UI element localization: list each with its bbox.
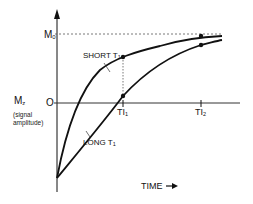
- time-axis-label: TIME: [141, 182, 163, 191]
- t1-recovery-diagram: [0, 0, 253, 204]
- short-t1-ti2-point: [199, 34, 203, 38]
- y-axis-note-1: (signal: [13, 112, 32, 119]
- zero-tick-label: O: [46, 98, 54, 108]
- long-t1-label: LONG T1: [83, 139, 116, 148]
- m0-tick-label: M0: [44, 30, 56, 40]
- ti1-sub: 1: [125, 111, 128, 117]
- long-t1-sub: 1: [113, 141, 116, 147]
- y-axis-note-2: amplitude): [13, 120, 43, 127]
- short-t1-ti1-point: [121, 55, 125, 59]
- long-t1-ti2-point: [199, 43, 203, 47]
- time-arrow-icon: [172, 183, 178, 189]
- mz-sub: z: [22, 100, 25, 106]
- ti2-text: TI: [195, 107, 203, 117]
- ti2-sub: 2: [203, 111, 206, 117]
- long-t1-text: LONG T: [83, 138, 113, 147]
- short-t1-sub: 1: [118, 54, 121, 60]
- ti1-text: TI: [117, 107, 125, 117]
- ti1-label: TI1: [117, 108, 128, 118]
- short-t1-label: SHORT T1: [83, 52, 121, 61]
- y-axis-arrow-icon: [54, 9, 60, 19]
- short-t1-text: SHORT T: [83, 51, 118, 60]
- long-t1-ti1-point: [121, 94, 125, 98]
- ti2-label: TI2: [195, 108, 206, 118]
- y-axis-label: Mz: [14, 96, 25, 106]
- m0-sub: 0: [52, 34, 55, 40]
- long-label-leader: [86, 131, 90, 137]
